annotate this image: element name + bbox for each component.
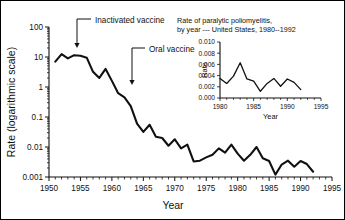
inset-title-line1: Rate of paralytic poliomyelitis, bbox=[177, 16, 272, 25]
inset-x-tick-label: 1985 bbox=[246, 103, 261, 110]
y-axis-title: Rate (logarithmic scale) bbox=[5, 47, 17, 157]
x-tick-label: 1975 bbox=[197, 184, 216, 193]
annotation-leader-2 bbox=[132, 48, 145, 81]
inset-x-tick-label: 1990 bbox=[280, 103, 295, 110]
annotation-label-1: Inactivated vaccine bbox=[95, 16, 165, 25]
x-tick-label: 1955 bbox=[71, 184, 90, 193]
chart-canvas: 0.0010.010.11101001950195519601965197019… bbox=[1, 1, 345, 220]
inset-axis-spines bbox=[220, 42, 321, 98]
inset-x-tick-label: 1995 bbox=[314, 103, 329, 110]
y-tick-label: 0.1 bbox=[32, 113, 44, 122]
inset-y-tick-label: 0.002 bbox=[198, 83, 215, 90]
inset-y-axis-title: Rate bbox=[200, 62, 209, 78]
y-tick-label: 0.001 bbox=[23, 173, 44, 182]
inset-y-tick-label: 0.000 bbox=[198, 94, 215, 101]
inset-x-axis-title: Year bbox=[263, 112, 278, 121]
inset-series-line bbox=[220, 63, 301, 92]
x-tick-label: 1980 bbox=[229, 184, 248, 193]
annotation-leader-1 bbox=[77, 19, 91, 44]
x-tick-label: 1985 bbox=[260, 184, 279, 193]
x-axis-title: Year bbox=[162, 199, 184, 211]
annotation-arrow-2 bbox=[129, 80, 134, 85]
x-tick-label: 1970 bbox=[166, 184, 185, 193]
x-tick-label: 1965 bbox=[134, 184, 153, 193]
inset-title-line2: by year --- United States, 1980--1992 bbox=[177, 25, 296, 34]
annotation-arrow-1 bbox=[74, 43, 79, 48]
annotation-label-2: Oral vaccine bbox=[149, 45, 195, 54]
inset-x-tick-label: 1980 bbox=[213, 103, 228, 110]
inset-y-tick-label: 0.010 bbox=[198, 38, 215, 45]
y-tick-label: 1 bbox=[38, 83, 43, 92]
poliomyelitis-rate-figure: 0.0010.010.11101001950195519601965197019… bbox=[0, 0, 345, 220]
y-tick-label: 0.01 bbox=[27, 143, 43, 152]
y-tick-label: 100 bbox=[29, 23, 43, 32]
x-tick-label: 1950 bbox=[40, 184, 59, 193]
x-tick-label: 1960 bbox=[103, 184, 122, 193]
y-tick-label: 10 bbox=[34, 53, 44, 62]
x-tick-label: 1995 bbox=[323, 184, 342, 193]
x-tick-label: 1990 bbox=[291, 184, 310, 193]
inset-y-tick-label: 0.008 bbox=[198, 50, 215, 57]
